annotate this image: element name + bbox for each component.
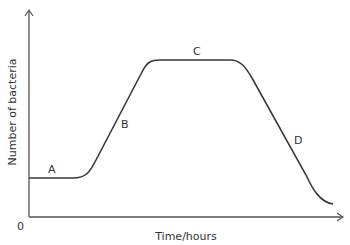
growth-curve-line: [29, 60, 333, 204]
phase-label-b: B: [121, 118, 129, 131]
phase-label-c: C: [193, 45, 201, 58]
growth-curve-chart: A B C D 0 Time/hours Number of bacteria: [0, 0, 350, 245]
origin-label: 0: [17, 220, 24, 233]
y-axis-title: Number of bacteria: [6, 59, 19, 166]
phase-label-a: A: [48, 163, 56, 176]
phase-label-d: D: [294, 134, 302, 147]
x-axis-title: Time/hours: [154, 230, 217, 243]
